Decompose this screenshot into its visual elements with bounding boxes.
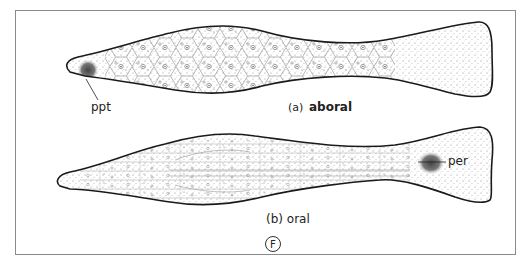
panel-b-caption: (b) oral [266, 213, 310, 225]
oral-specimen [55, 125, 500, 210]
panel-b-prefix: (b) [266, 212, 283, 226]
panel-a-title: aboral [309, 101, 352, 113]
figure-letter-badge: F [265, 236, 281, 252]
panel-a-prefix: (a) [288, 102, 303, 113]
figure-letter: F [270, 239, 276, 250]
specimen-illustration [0, 0, 530, 269]
per-label: per [448, 155, 468, 167]
ppt-label: ppt [91, 101, 111, 113]
panel-b-title: oral [287, 212, 310, 226]
ppt-leader-line [86, 79, 98, 100]
